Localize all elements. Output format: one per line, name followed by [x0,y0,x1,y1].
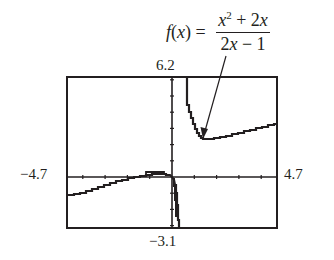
curve-left-branch [67,174,179,228]
curve-right-branch [187,77,277,139]
graph-canvas [0,0,334,260]
annotation-arrow-line [205,56,226,131]
